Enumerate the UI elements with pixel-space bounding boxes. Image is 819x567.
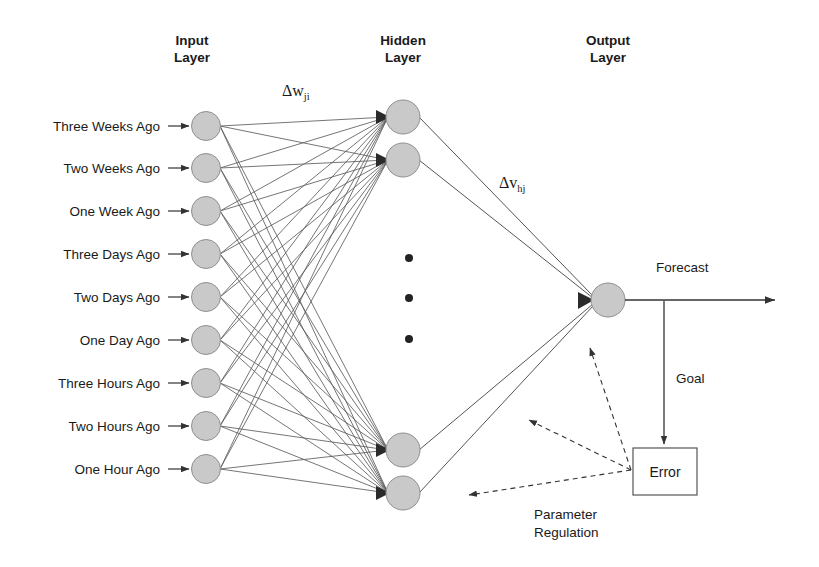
output-layer-node	[591, 283, 625, 317]
input-node	[192, 412, 221, 441]
feedback-arrow-to-input	[469, 470, 631, 495]
input-node	[192, 197, 221, 226]
input-node	[192, 154, 221, 183]
weight-subscript-hj: hj	[517, 183, 525, 194]
weight-label-hidden-output: Δvhj	[499, 174, 525, 194]
input-label-three-weeks-ago: Three Weeks Ago	[0, 119, 160, 134]
hidden-layer-heading: HiddenLayer	[363, 32, 443, 66]
input-label-two-weeks-ago: Two Weeks Ago	[0, 161, 160, 176]
input-node	[192, 326, 221, 355]
input-label-two-hours-ago: Two Hours Ago	[0, 419, 160, 434]
input-node	[192, 240, 221, 269]
goal-label: Goal	[676, 371, 705, 386]
input-label-three-hours-ago: Three Hours Ago	[0, 376, 160, 391]
input-node	[192, 369, 221, 398]
neural-network-diagram: InputLayer HiddenLayer OutputLayer Three…	[0, 0, 819, 567]
hidden-node	[386, 143, 420, 177]
input-label-two-days-ago: Two Days Ago	[0, 290, 160, 305]
input-label-three-days-ago: Three Days Ago	[0, 247, 160, 262]
input-label-one-hour-ago: One Hour Ago	[0, 462, 160, 477]
weight-label-input-hidden: Δwji	[282, 82, 310, 102]
diagram-canvas	[0, 0, 819, 567]
input-label-one-week-ago: One Week Ago	[0, 204, 160, 219]
input-label-one-day-ago: One Day Ago	[0, 333, 160, 348]
input-layer-heading: InputLayer	[152, 32, 232, 66]
error-label: Error	[649, 464, 680, 480]
weight-symbol-delta-v: Δv	[499, 174, 517, 191]
weight-symbol-delta-w: Δw	[282, 82, 304, 99]
parameter-regulation-label: ParameterRegulation	[534, 506, 599, 542]
input-layer-nodes	[192, 112, 221, 484]
input-to-hidden-edges	[220, 117, 388, 493]
hidden-layer-ellipsis-icon	[405, 254, 413, 343]
input-node	[192, 455, 221, 484]
forecast-label: Forecast	[656, 260, 709, 275]
feedback-arrow-to-hidden-output	[590, 348, 631, 470]
output-layer-heading: OutputLayer	[568, 32, 648, 66]
feedback-arrow-to-hidden	[529, 420, 631, 470]
hidden-node	[386, 433, 420, 467]
input-node	[192, 283, 221, 312]
weight-subscript-ji: ji	[304, 91, 310, 102]
input-entry-arrows	[168, 126, 189, 469]
hidden-node	[386, 100, 420, 134]
hidden-layer-nodes	[386, 100, 420, 510]
hidden-node	[386, 476, 420, 510]
input-node	[192, 112, 221, 141]
parameter-regulation-arrows	[469, 348, 631, 495]
